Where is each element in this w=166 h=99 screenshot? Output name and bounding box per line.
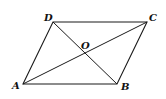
- label-d: D: [43, 12, 53, 23]
- label-b: B: [120, 81, 129, 92]
- diagonal-bd: [53, 22, 117, 84]
- parallelogram-diagram: D C O A B: [0, 0, 166, 99]
- label-o: O: [81, 40, 90, 51]
- label-a: A: [11, 80, 20, 91]
- label-c: C: [149, 12, 157, 23]
